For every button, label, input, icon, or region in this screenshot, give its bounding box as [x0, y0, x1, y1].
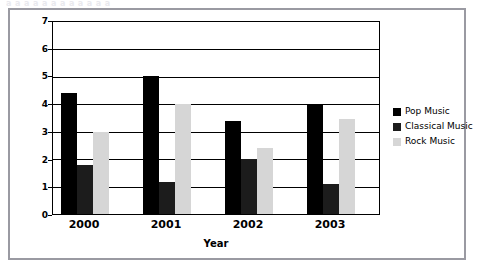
- legend-item: Classical Music: [393, 121, 478, 132]
- plot-wrapper: £'s in billions 01234567: [52, 21, 380, 215]
- bar-rock-music-2002: [257, 148, 273, 214]
- x-tick-label: 2000: [69, 218, 100, 231]
- y-tick-mark: [48, 21, 52, 22]
- legend-swatch-icon: [393, 138, 401, 146]
- y-tick-mark: [48, 187, 52, 188]
- legend-item: Pop Music: [393, 106, 478, 117]
- y-tick-mark: [48, 215, 52, 216]
- legend-label: Rock Music: [405, 137, 455, 146]
- legend-label: Classical Music: [405, 122, 473, 131]
- y-tick-mark: [48, 160, 52, 161]
- bar-group: [217, 22, 299, 214]
- bar-rock-music-2000: [93, 132, 109, 214]
- legend-swatch-icon: [393, 108, 401, 116]
- bar-pop-music-2001: [143, 76, 159, 215]
- legend-swatch-icon: [393, 123, 401, 131]
- x-tick-label: 2002: [233, 218, 264, 231]
- bar-group: [135, 22, 217, 214]
- bar-classical-music-2001: [159, 182, 175, 214]
- bar-pop-music-2002: [225, 121, 241, 214]
- bar-rock-music-2001: [175, 104, 191, 214]
- clipped-header-text: a a a a a a a a a a a a: [6, 0, 176, 7]
- legend-item: Rock Music: [393, 136, 478, 147]
- chart-frame: £'s in billions 01234567 200020012002200…: [8, 8, 466, 260]
- bar-group: [53, 22, 135, 214]
- y-tick-mark: [48, 76, 52, 77]
- y-tick-mark: [48, 49, 52, 50]
- bar-pop-music-2003: [307, 104, 323, 214]
- legend-label: Pop Music: [405, 107, 450, 116]
- bar-classical-music-2003: [323, 184, 339, 214]
- bar-group: [299, 22, 380, 214]
- x-tick-label: 2003: [315, 218, 346, 231]
- bar-pop-music-2000: [61, 93, 77, 214]
- x-axis-title: Year: [52, 238, 380, 249]
- bar-classical-music-2002: [241, 159, 257, 214]
- plot-area: [52, 21, 380, 215]
- x-tick-label: 2001: [151, 218, 182, 231]
- chart-legend: Pop MusicClassical MusicRock Music: [393, 106, 478, 151]
- y-tick-mark: [48, 132, 52, 133]
- y-tick-mark: [48, 104, 52, 105]
- bar-rock-music-2003: [339, 119, 355, 214]
- bar-classical-music-2000: [77, 165, 93, 214]
